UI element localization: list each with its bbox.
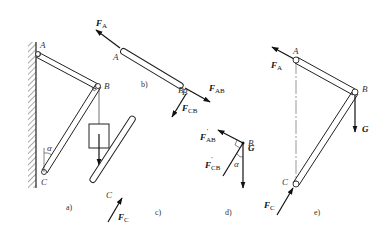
point-a-label: A — [39, 40, 46, 50]
force-fab-prime-label: FAB′ — [199, 127, 216, 144]
force-fc-label: FC — [117, 212, 129, 224]
force-fa-label: FA — [270, 60, 282, 72]
force-fc-arrow — [277, 188, 293, 215]
panel-c: FCB FC B C c) — [89, 87, 198, 224]
pin-b — [352, 89, 358, 95]
caption-e: e) — [314, 208, 321, 217]
point-b-label: B — [362, 84, 368, 94]
point-b-label: B — [104, 81, 110, 91]
point-a-label: A — [292, 46, 299, 56]
caption-b: b) — [141, 80, 148, 89]
panel-b: FA FAB A B b) — [95, 18, 225, 102]
weight-label: G — [362, 124, 369, 134]
point-c-label: C — [106, 190, 113, 200]
panel-d: FAB′ FCB′ α G B d) — [199, 127, 255, 217]
caption-d: d) — [225, 208, 232, 217]
point-c-label: C — [41, 177, 48, 187]
point-b-label: B — [182, 87, 188, 97]
panel-e: A B C FA G FC e) — [263, 46, 369, 217]
angle-alpha-label: α — [47, 143, 52, 153]
force-fab-prime-arrow — [218, 130, 243, 143]
angle-alpha-label: α — [234, 159, 239, 169]
wall — [28, 42, 36, 188]
point-a-label: A — [112, 52, 119, 62]
angle-arc — [44, 153, 52, 155]
pin-a — [293, 57, 299, 63]
bar-ab — [36, 52, 98, 89]
point-c-label: C — [282, 177, 289, 187]
caption-c: c) — [155, 208, 162, 217]
pin-c — [293, 181, 299, 187]
point-b-label: B — [248, 138, 254, 148]
panel-a: α G A B C a) — [28, 40, 111, 212]
force-fcb-label: FCB — [181, 103, 198, 115]
force-fa-label: FA — [95, 18, 107, 30]
force-fcb-prime-label: FCB′ — [204, 155, 221, 172]
bar-ab-fbd — [119, 47, 184, 89]
caption-a: a) — [66, 203, 73, 212]
force-fc-label: FC — [263, 200, 275, 212]
force-fab-label: FAB — [208, 83, 225, 95]
force-fa-arrow — [96, 30, 120, 48]
statics-diagram: α G A B C a) FA FAB A B b) FCB FC B C c) — [0, 0, 389, 240]
pin-b — [96, 84, 101, 89]
force-fab-arrow — [185, 88, 210, 102]
